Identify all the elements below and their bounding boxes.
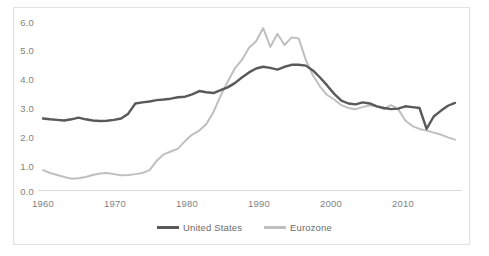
- y-tick-label: 2.0: [8, 132, 34, 143]
- y-tick-label: 1.0: [8, 161, 34, 172]
- y-tick-label: 6.0: [8, 17, 34, 28]
- legend-item-eurozone[interactable]: Eurozone: [264, 222, 332, 233]
- series-line-eurozone: [43, 28, 455, 179]
- line-chart-plot: [0, 0, 489, 256]
- x-tick-label: 1990: [239, 198, 279, 209]
- legend-label: Eurozone: [290, 222, 332, 233]
- legend-swatch-icon: [264, 226, 286, 229]
- series-line-united-states: [43, 65, 455, 129]
- legend-swatch-icon: [157, 226, 179, 229]
- y-tick-label: 3.0: [8, 103, 34, 114]
- x-tick-label: 1980: [167, 198, 207, 209]
- x-tick-label: 2010: [383, 198, 423, 209]
- chart-legend: United States Eurozone: [0, 222, 489, 233]
- x-tick-label: 2000: [311, 198, 351, 209]
- y-tick-label: 0.0: [8, 186, 34, 197]
- x-tick-label: 1970: [95, 198, 135, 209]
- y-tick-label: 5.0: [8, 45, 34, 56]
- x-tick-label: 1960: [23, 198, 63, 209]
- y-tick-label: 4.0: [8, 74, 34, 85]
- legend-label: United States: [183, 222, 242, 233]
- legend-item-united-states[interactable]: United States: [157, 222, 242, 233]
